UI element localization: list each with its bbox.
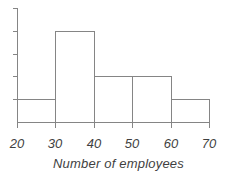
histogram-figure: 203040506070 Number of employees: [0, 0, 227, 183]
x-axis-tick-label: 60: [156, 137, 186, 151]
x-axis-tick: [55, 123, 56, 128]
x-axis-tick: [171, 123, 172, 128]
x-axis-tick-label: 70: [194, 137, 224, 151]
x-axis-line: [17, 122, 210, 123]
x-axis-tick-label: 20: [2, 137, 32, 151]
y-axis-tick: [13, 99, 17, 100]
y-axis-tick: [13, 54, 17, 55]
x-axis-tick: [94, 123, 95, 128]
y-axis-line: [17, 8, 18, 123]
y-axis-tick: [13, 76, 17, 77]
histogram-bar: [55, 31, 95, 123]
histogram-bar: [94, 76, 133, 123]
y-axis-tick: [13, 31, 17, 32]
x-axis-tick: [17, 123, 18, 128]
histogram-bar: [132, 76, 172, 123]
x-axis-tick: [132, 123, 133, 128]
x-axis-tick-label: 50: [117, 137, 147, 151]
y-axis-tick: [13, 8, 17, 9]
histogram-bar: [171, 99, 210, 123]
x-axis-tick: [209, 123, 210, 128]
histogram-bar: [17, 99, 56, 123]
x-axis-tick-label: 40: [79, 137, 109, 151]
x-axis-title: Number of employees: [10, 156, 227, 171]
x-axis-tick-label: 30: [40, 137, 70, 151]
